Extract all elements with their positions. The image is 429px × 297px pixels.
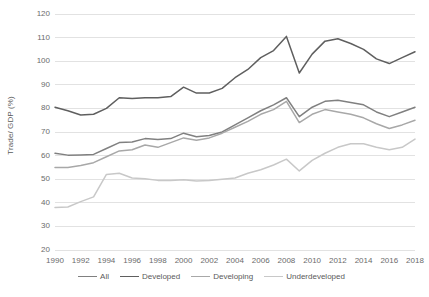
series-line-underdeveloped: [55, 139, 415, 207]
legend-item-label: Developing: [213, 272, 253, 281]
legend-item-all[interactable]: All: [78, 272, 109, 281]
legend-line-swatch: [120, 276, 139, 277]
legend-item-label: Developed: [142, 272, 180, 281]
legend-line-swatch: [78, 276, 97, 277]
legend-item-developed[interactable]: Developed: [120, 272, 180, 281]
legend-line-swatch: [191, 276, 210, 277]
legend-item-label: Underdeveloped: [286, 272, 345, 281]
series-line-developing: [55, 101, 415, 167]
legend-item-label: All: [100, 272, 109, 281]
plot-area: 2030405060708090100110120 19901992199419…: [0, 0, 423, 262]
series-line-developed: [55, 36, 415, 115]
chart-legend: AllDevelopedDevelopingUnderdeveloped: [0, 272, 423, 281]
legend-item-underdeveloped[interactable]: Underdeveloped: [264, 272, 345, 281]
legend-line-swatch: [264, 276, 283, 277]
plot-canvas: [0, 0, 423, 262]
legend-item-developing[interactable]: Developing: [191, 272, 253, 281]
